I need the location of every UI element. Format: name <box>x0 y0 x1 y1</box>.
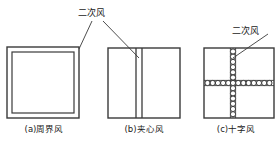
burner-air-supply-diagram: 二次风 二次风 (a)周界风 (b)夹心风 (c)十字风 <box>0 0 280 144</box>
secondary-air-label-top: 二次风 <box>78 8 105 18</box>
secondary-air-label-right: 二次风 <box>232 26 259 36</box>
caption-diagram-b: (b)夹心风 <box>100 124 188 134</box>
diagram-a-peripheral-air <box>7 47 79 118</box>
leader-line-to-diagram-c <box>233 34 268 58</box>
leader-line-to-diagram-a <box>79 21 92 49</box>
diagram-c-cross-air <box>204 48 274 118</box>
diagram-c-circle-cross <box>205 49 272 117</box>
diagram-a-inner-rect <box>12 52 74 113</box>
caption-diagram-c: (c)十字风 <box>192 124 280 134</box>
caption-diagram-a: (a)周界风 <box>0 124 88 134</box>
diagram-canvas <box>0 0 280 144</box>
diagram-b-outer-rect <box>108 48 180 118</box>
diagram-a-outer-rect <box>7 47 79 118</box>
diagram-b-core-air <box>108 48 180 118</box>
